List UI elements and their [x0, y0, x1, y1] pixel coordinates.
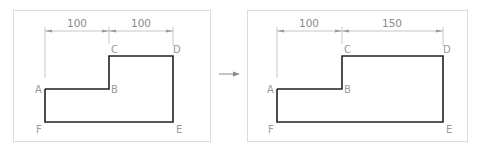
dimension-label-ab: 100 — [299, 17, 319, 29]
before-panel: 100 100 A B C D E F — [14, 11, 211, 142]
diagram-canvas: 100 100 A B C D E F 100 150 A B C D E F — [0, 0, 479, 152]
point-label-f: F — [36, 124, 42, 135]
point-label-d: D — [173, 44, 181, 55]
dimension-label-ab: 100 — [67, 17, 87, 29]
dimension-label-cd: 100 — [131, 17, 151, 29]
point-label-a: A — [267, 84, 274, 95]
transition-arrow-icon — [219, 72, 240, 77]
point-label-e: E — [446, 124, 452, 135]
point-label-b: B — [344, 84, 351, 95]
point-label-a: A — [35, 84, 42, 95]
point-label-b: B — [111, 84, 118, 95]
point-label-d: D — [443, 44, 451, 55]
point-label-e: E — [176, 124, 182, 135]
dimension-label-cd: 150 — [382, 17, 402, 29]
point-label-c: C — [344, 44, 351, 55]
point-label-c: C — [111, 44, 118, 55]
after-panel: 100 150 A B C D E F — [248, 11, 468, 142]
point-label-f: F — [268, 124, 274, 135]
